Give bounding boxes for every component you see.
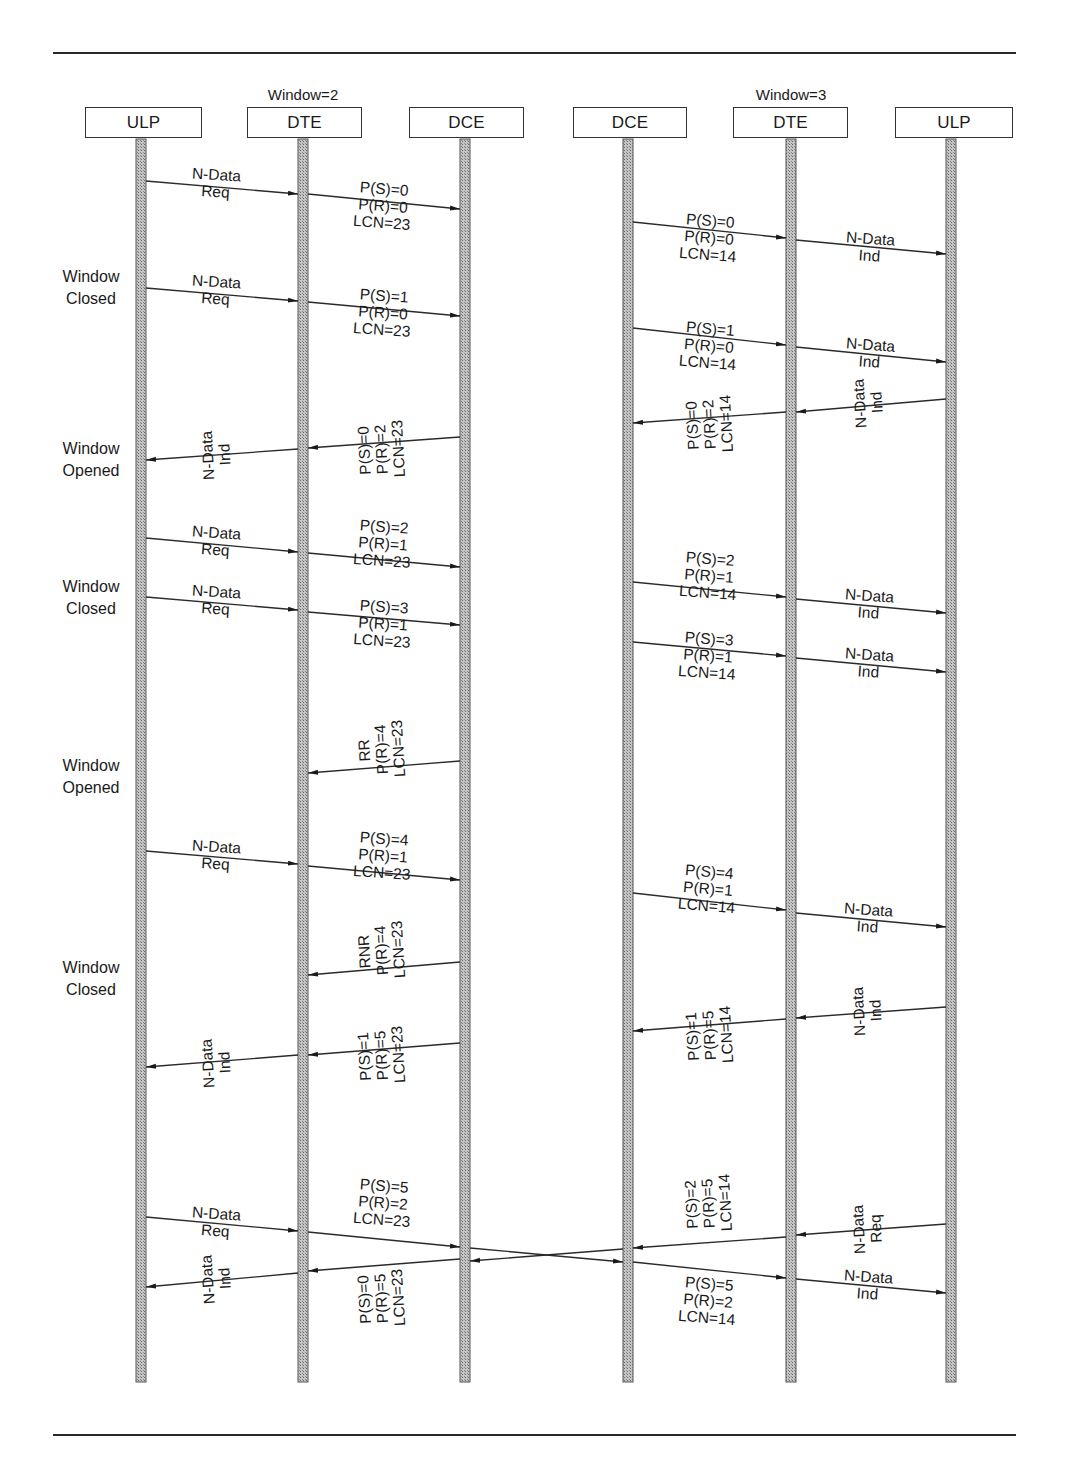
diagram-lines — [0, 0, 1070, 1464]
participant-ulp2: ULP — [895, 107, 1013, 138]
window-size-note: Window=3 — [721, 86, 861, 103]
sequence-diagram: ULPDTEWindow=2DCEDCEDTEWindow=3ULP Windo… — [0, 0, 1070, 1464]
lifeline-dte1 — [298, 139, 308, 1382]
window-state-label: Window Closed — [41, 576, 141, 620]
message-label: N-Data Req — [160, 835, 272, 876]
participant-ulp1: ULP — [85, 107, 202, 138]
message-label: P(S)=1 P(R)=5 LCN=14 — [680, 979, 737, 1092]
window-state-label: Window Opened — [41, 755, 141, 799]
participant-dte2: DTE — [733, 107, 848, 138]
message-label: P(S)=3 P(R)=1 LCN=14 — [651, 626, 764, 684]
lifelines — [136, 139, 956, 1382]
message-label: N-Data Ind — [196, 399, 236, 511]
message-label: P(S)=1 P(R)=0 LCN=23 — [326, 283, 439, 341]
lifeline-dce1 — [460, 139, 470, 1382]
message-label: P(S)=5 P(R)=2 LCN=14 — [651, 1271, 765, 1330]
message-label: P(S)=1 P(R)=0 LCN=14 — [652, 316, 766, 376]
message-label: N-Data Ind — [847, 955, 887, 1067]
window-state-label: Window Closed — [41, 957, 141, 1001]
message-label: RNR P(R)=4 LCN=23 — [352, 894, 410, 1007]
message-label: N-Data Ind — [196, 1007, 236, 1119]
message-label: P(S)=0 P(R)=0 LCN=23 — [326, 176, 439, 235]
message-label: P(S)=0 P(R)=2 LCN=23 — [353, 393, 410, 506]
message-label: P(S)=2 P(R)=1 LCN=14 — [652, 546, 765, 605]
message-label: P(S)=1 P(R)=5 LCN=23 — [352, 999, 409, 1112]
window-state-label: Window Closed — [41, 266, 141, 310]
participant-dce1: DCE — [409, 107, 524, 138]
lifeline-dte2 — [786, 139, 796, 1382]
message-label: P(S)=4 P(R)=1 LCN=14 — [651, 859, 765, 919]
lifeline-dce2 — [623, 139, 633, 1382]
message-label: P(S)=5 P(R)=2 LCN=23 — [326, 1173, 439, 1232]
message-label: P(S)=2 P(R)=1 LCN=23 — [326, 514, 439, 572]
message-label: P(S)=3 P(R)=1 LCN=23 — [326, 595, 439, 653]
window-state-label: Window Opened — [41, 438, 141, 482]
message-label: P(S)=0 P(R)=5 LCN=23 — [352, 1242, 409, 1355]
message-label: P(S)=2 P(R)=5 LCN=14 — [680, 1147, 737, 1260]
message-label: N-Data Req — [160, 270, 272, 311]
message-arrow — [470, 1249, 623, 1261]
message-label: P(S)=0 P(R)=2 LCN=14 — [681, 368, 738, 481]
message-label: N-Data Req — [160, 580, 272, 621]
message-label: RR P(R)=4 LCN=23 — [352, 693, 409, 806]
message-label: P(S)=0 P(R)=0 LCN=14 — [652, 208, 766, 267]
message-label: N-Data Req — [847, 1173, 887, 1285]
message-label: N-Data Req — [160, 163, 272, 204]
participant-dce2: DCE — [573, 107, 687, 138]
participant-dte1: DTE — [247, 107, 362, 138]
message-label: P(S)=4 P(R)=1 LCN=23 — [326, 826, 439, 884]
window-size-note: Window=2 — [233, 86, 373, 103]
lifeline-ulp2 — [946, 139, 956, 1382]
message-label: N-Data Ind — [847, 347, 888, 459]
